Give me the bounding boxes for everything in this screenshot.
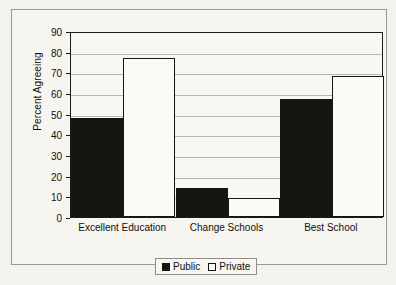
y-tick-label: 10 [51, 192, 62, 203]
y-tick-label: 70 [51, 68, 62, 79]
y-tick-label: 30 [51, 151, 62, 162]
x-tick-label: Change Schools [190, 222, 263, 233]
legend-item-public: Public [162, 261, 200, 272]
legend-item-private: Private [208, 261, 250, 272]
x-tick-label: Excellent Education [78, 222, 166, 233]
y-tick-label: 80 [51, 47, 62, 58]
y-tick-label: 90 [51, 27, 62, 38]
y-tick-label: 0 [56, 213, 62, 224]
bar-private-best-school [332, 76, 384, 217]
legend-label: Public [173, 261, 200, 272]
bar-private-excellent-education [123, 58, 175, 217]
y-axis-ticks: 0102030405060708090 [12, 32, 70, 218]
figure-frame: Percent Agreeing 0102030405060708090 Exc… [11, 9, 387, 265]
bar-public-best-school [280, 99, 332, 217]
x-axis-category-labels: Excellent EducationChange SchoolsBest Sc… [70, 222, 383, 238]
y-tick-label: 40 [51, 130, 62, 141]
legend-label: Private [219, 261, 250, 272]
bar-public-change-schools [176, 188, 228, 217]
y-tick-label: 60 [51, 89, 62, 100]
bar-private-change-schools [228, 198, 280, 217]
filled-square-icon [162, 263, 170, 271]
hollow-square-icon [208, 263, 216, 271]
y-tick-label: 50 [51, 109, 62, 120]
chart-legend: PublicPrivate [155, 258, 257, 275]
plot-area [70, 32, 383, 218]
figure-canvas: Percent Agreeing 0102030405060708090 Exc… [0, 0, 396, 285]
y-tick-mark [66, 218, 70, 219]
bar-public-excellent-education [71, 118, 123, 217]
x-tick-label: Best School [304, 222, 357, 233]
bar-series-group [71, 33, 382, 217]
y-tick-label: 20 [51, 171, 62, 182]
